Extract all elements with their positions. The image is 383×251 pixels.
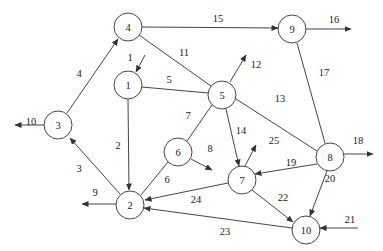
edge-label: 20 bbox=[325, 173, 336, 184]
edge-label: 25 bbox=[269, 135, 280, 146]
edge-label: 22 bbox=[278, 192, 289, 203]
node-label: 6 bbox=[175, 147, 180, 158]
edge-2-arrow bbox=[128, 99, 129, 190]
edge-labels-layer: 1234567891011121314151617181920212223242… bbox=[26, 13, 364, 237]
node-8: 8 bbox=[316, 143, 344, 171]
edge-label: 10 bbox=[26, 116, 37, 127]
edge-4-arrow bbox=[67, 39, 118, 113]
edge-11-line bbox=[139, 35, 211, 86]
edge-17-line bbox=[297, 43, 325, 143]
node-10: 10 bbox=[292, 216, 320, 244]
edge-label: 19 bbox=[286, 157, 297, 168]
network-diagram: 1234567891011121314151617181920212223242… bbox=[0, 0, 383, 251]
node-2: 2 bbox=[116, 191, 144, 219]
edge-label: 11 bbox=[179, 47, 189, 58]
edge-8-arrow bbox=[191, 159, 212, 170]
node-label: 5 bbox=[219, 90, 224, 101]
edge-label: 3 bbox=[76, 163, 81, 174]
edge-label: 8 bbox=[207, 143, 212, 154]
node-3: 3 bbox=[44, 111, 72, 139]
edge-label: 17 bbox=[319, 67, 330, 78]
edge-23-arrow bbox=[144, 208, 292, 228]
edge-label: 21 bbox=[345, 214, 356, 225]
node-6: 6 bbox=[164, 138, 192, 166]
edge-label: 16 bbox=[329, 14, 340, 25]
edge-label: 15 bbox=[213, 13, 224, 24]
edge-1-arrow bbox=[136, 55, 145, 72]
edge-label: 12 bbox=[251, 59, 262, 70]
edge-label: 6 bbox=[164, 174, 169, 185]
graph-svg: 1234567891011121314151617181920212223242… bbox=[0, 0, 383, 251]
node-label: 3 bbox=[55, 120, 60, 131]
node-9: 9 bbox=[278, 15, 306, 43]
edge-24-arrow bbox=[145, 183, 228, 200]
edge-label: 14 bbox=[236, 125, 247, 136]
edge-label: 7 bbox=[185, 110, 190, 121]
edge-label: 9 bbox=[92, 187, 97, 198]
node-label: 2 bbox=[127, 200, 132, 211]
node-label: 10 bbox=[301, 225, 312, 236]
node-label: 8 bbox=[327, 152, 332, 163]
edge-label: 18 bbox=[353, 135, 364, 146]
edge-label: 23 bbox=[220, 226, 231, 237]
edge-label: 24 bbox=[191, 194, 202, 205]
edge-label: 4 bbox=[76, 68, 82, 79]
node-label: 1 bbox=[125, 80, 130, 91]
node-5: 5 bbox=[208, 81, 236, 109]
edge-label: 1 bbox=[127, 52, 132, 63]
edge-15-arrow bbox=[142, 27, 278, 28]
node-label: 7 bbox=[239, 175, 244, 186]
edge-25-arrow bbox=[245, 145, 256, 166]
node-label: 4 bbox=[125, 22, 131, 33]
edge-12-arrow bbox=[230, 55, 246, 82]
edge-5-line bbox=[142, 87, 208, 93]
node-label: 9 bbox=[289, 24, 294, 35]
edge-label: 5 bbox=[166, 74, 171, 85]
nodes-layer: 12345678910 bbox=[44, 13, 344, 244]
edge-label: 13 bbox=[275, 93, 286, 104]
node-1: 1 bbox=[114, 71, 142, 99]
edge-14-arrow bbox=[226, 109, 239, 166]
node-4: 4 bbox=[114, 13, 142, 41]
edge-label: 2 bbox=[115, 140, 120, 151]
node-7: 7 bbox=[228, 166, 256, 194]
edge-7-line bbox=[187, 105, 212, 141]
